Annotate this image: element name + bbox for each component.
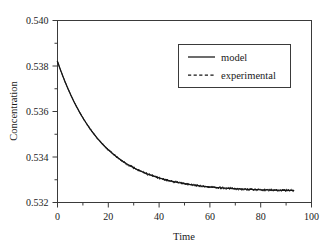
legend-label-model: model (221, 52, 247, 63)
x-tick-label: 40 (154, 211, 164, 222)
x-tick-label: 60 (205, 211, 215, 222)
x-tick-label: 80 (256, 211, 266, 222)
y-axis-title: Concentration (8, 81, 19, 141)
chart-legend: model experimental (179, 45, 291, 88)
concentration-vs-time-chart: 020406080100 0.5320.5340.5360.5380.540 T… (0, 0, 333, 247)
y-tick-label: 0.532 (26, 197, 49, 208)
y-tick-label: 0.534 (26, 152, 49, 163)
chart-background (0, 0, 333, 247)
x-tick-label: 20 (103, 211, 113, 222)
y-tick-label: 0.540 (26, 15, 49, 26)
legend-label-experimental: experimental (221, 70, 276, 81)
x-tick-label: 100 (304, 211, 319, 222)
y-tick-label: 0.536 (26, 106, 49, 117)
chart-figure: 020406080100 0.5320.5340.5360.5380.540 T… (0, 0, 333, 247)
y-tick-label: 0.538 (26, 61, 49, 72)
x-axis-title: Time (173, 231, 195, 242)
x-tick-label: 0 (55, 211, 60, 222)
